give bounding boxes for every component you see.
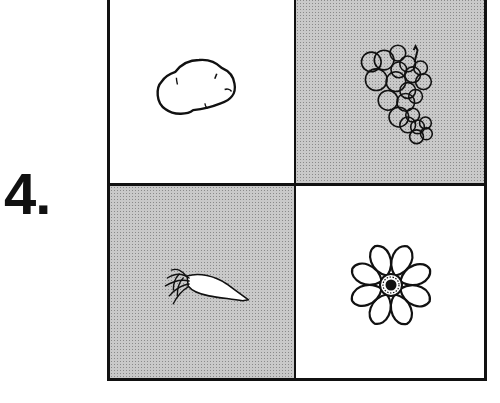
cell-grapes[interactable] <box>296 0 484 186</box>
cell-potato[interactable] <box>110 0 296 186</box>
flower-icon <box>296 186 484 378</box>
potato-icon <box>110 0 294 183</box>
grapes-icon <box>296 0 484 183</box>
cell-flower[interactable] <box>296 186 484 378</box>
carrot-icon <box>110 186 294 378</box>
item-number: 4. <box>4 165 50 223</box>
picture-grid <box>107 0 487 381</box>
cell-carrot[interactable] <box>110 186 296 378</box>
